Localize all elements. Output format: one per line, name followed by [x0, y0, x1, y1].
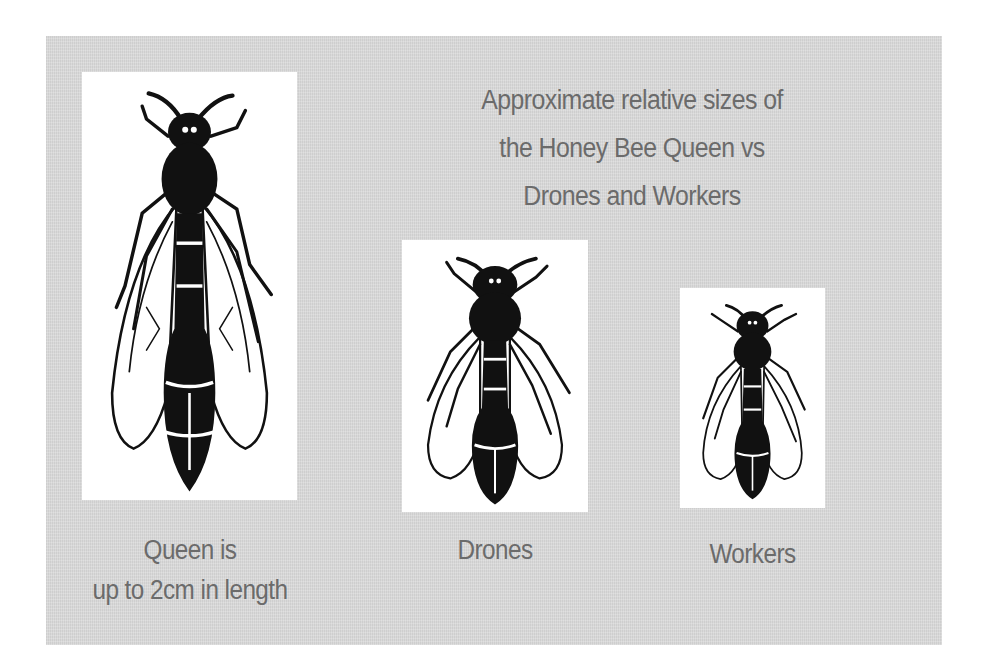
title-line-1: Approximate relative sizes of: [419, 76, 846, 124]
queen-label-line-2: up to 2cm in length: [55, 570, 325, 610]
queen-bee-icon: [82, 72, 297, 500]
workers-label: Workers: [674, 534, 832, 574]
drone-bee-icon: [402, 240, 588, 512]
queen-label: Queen is up to 2cm in length: [55, 530, 325, 610]
workers-label-text: Workers: [674, 534, 832, 574]
title-line-3: Drones and Workers: [419, 172, 846, 220]
worker-bee-icon: [680, 288, 825, 508]
drones-illustration-box: [402, 240, 588, 512]
drones-label: Drones: [405, 530, 585, 570]
queen-label-line-1: Queen is: [55, 530, 325, 570]
queen-illustration-box: [82, 72, 297, 500]
title-line-2: the Honey Bee Queen vs: [419, 124, 846, 172]
drones-label-text: Drones: [405, 530, 585, 570]
diagram-title: Approximate relative sizes of the Honey …: [419, 76, 846, 220]
workers-illustration-box: [680, 288, 825, 508]
